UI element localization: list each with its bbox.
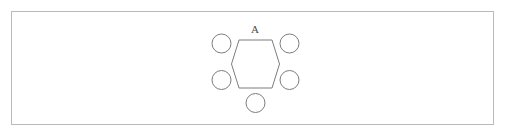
- hexagon-ring: [232, 40, 280, 88]
- node-bottom-left: [212, 71, 231, 90]
- screenshot-canvas: A: [0, 0, 507, 138]
- node-bottom-right: [280, 71, 299, 90]
- node-top-left: [212, 34, 231, 53]
- ring-label-a: A: [251, 23, 259, 35]
- structure-figure: A: [0, 0, 507, 138]
- node-bottom: [246, 94, 265, 113]
- node-top-right: [280, 34, 299, 53]
- structure-svg: A: [0, 0, 507, 138]
